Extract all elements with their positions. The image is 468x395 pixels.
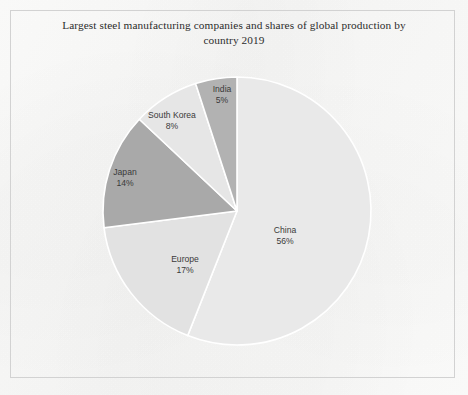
slice-label-value-south-korea: 8% <box>148 121 196 132</box>
slice-label-value-india: 5% <box>213 95 232 106</box>
slice-label-japan: Japan14% <box>113 167 136 189</box>
slice-label-south-korea: South Korea8% <box>148 110 196 132</box>
chart-page: Largest steel manufacturing companies an… <box>0 0 468 395</box>
slice-label-value-china: 56% <box>274 236 296 247</box>
slice-label-name-india: India <box>213 84 232 95</box>
slice-label-name-china: China <box>274 225 296 236</box>
slice-label-name-japan: Japan <box>113 167 136 178</box>
slice-label-value-japan: 14% <box>113 178 136 189</box>
slice-label-china: China56% <box>274 225 296 247</box>
slice-label-value-europe: 17% <box>171 265 199 276</box>
pie-chart: China56%Europe17%Japan14%South Korea8%In… <box>0 0 468 395</box>
pie-chart-svg <box>0 0 468 395</box>
slice-label-name-europe: Europe <box>171 254 199 265</box>
slice-label-india: India5% <box>213 84 232 106</box>
slice-label-name-south-korea: South Korea <box>148 110 196 121</box>
slice-label-europe: Europe17% <box>171 254 199 276</box>
